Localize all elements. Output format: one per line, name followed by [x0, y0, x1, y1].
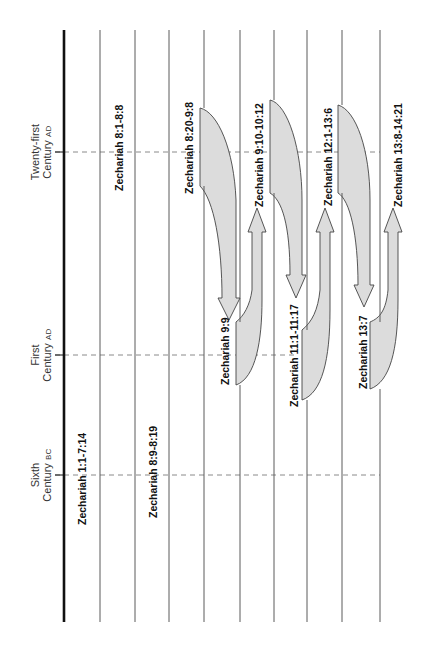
passage-label: Zechariah 12:1-13:6: [322, 108, 334, 206]
era-label-first-century: First Century AD: [29, 327, 55, 383]
arrow-down-icon: [270, 100, 306, 298]
era-label-sixth-century: Sixth Century BC: [29, 447, 55, 503]
era-label-twenty-first-century: Twenty-first Century AD: [29, 114, 55, 190]
passage-label: Zechariah 9:10-10:12: [253, 103, 265, 207]
era-line2: Century AD: [41, 114, 55, 190]
arrow-up-icon: [370, 208, 402, 389]
passage-label: Zechariah 9:9: [219, 317, 231, 385]
era-line2: Century AD: [41, 327, 55, 383]
arrow-down-icon: [338, 105, 374, 307]
passage-label: Zechariah 13:8-14:21: [392, 103, 404, 207]
passage-label: Zechariah 8:1-8:8: [113, 105, 125, 191]
passage-label: Zechariah 11:1-11:17: [288, 304, 300, 407]
passage-label: Zechariah 13:7: [357, 315, 369, 389]
passage-label: Zechariah 8:9-8:19: [147, 426, 159, 518]
era-line1: First: [29, 327, 41, 383]
arrow-down-icon: [200, 108, 240, 320]
passage-label: Zechariah 8:20-9:8: [183, 102, 195, 194]
axis-ticks: [55, 152, 64, 475]
era-line1: Sixth: [29, 447, 41, 503]
zechariah-timeline-diagram: Twenty-first Century AD First Century AD…: [0, 0, 427, 653]
era-line1: Twenty-first: [29, 114, 41, 190]
passage-label: Zechariah 1:1-7:14: [76, 433, 88, 525]
era-line2: Century BC: [41, 447, 55, 503]
